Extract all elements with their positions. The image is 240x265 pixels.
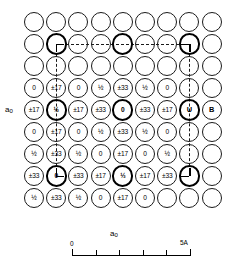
atom-height-label: ½: [76, 151, 81, 158]
atom-height-label: 0: [165, 85, 168, 92]
atom-circle: [24, 12, 44, 32]
atom-height-label: ±33: [118, 85, 128, 92]
atom-circle: [179, 56, 199, 76]
atom-height-label: ±33: [29, 173, 39, 180]
atom-circle: 0: [91, 188, 111, 208]
atom-height-label: ±33: [118, 129, 128, 136]
atom-circle: [202, 122, 222, 142]
atom-height-label: 0: [121, 107, 124, 114]
atom-circle: [68, 12, 88, 32]
atom-circle: U: [179, 99, 200, 120]
atom-height-label: 0: [32, 85, 35, 92]
atom-circle: [135, 12, 155, 32]
atom-height-label: ½: [142, 85, 147, 92]
atom-height-label: ±17: [140, 173, 150, 180]
atom-circle: ±33: [46, 144, 66, 164]
atom-circle: [179, 78, 199, 98]
atom-circle: ½: [24, 144, 44, 164]
atom-circle: [68, 34, 88, 54]
atom-circle: 0: [135, 144, 155, 164]
y-axis-label: a0: [5, 105, 13, 114]
atom-height-label: 0: [77, 129, 80, 136]
atom-circle: ±17: [113, 144, 133, 164]
atom-circle: [113, 56, 133, 76]
atom-circle: [202, 144, 222, 164]
atom-circle: ±17: [157, 100, 177, 120]
atom-circle: [179, 188, 199, 208]
atom-height-label: ½: [120, 173, 125, 180]
atom-height-label: ±33: [73, 173, 83, 180]
atom-circle: ±33: [91, 100, 111, 120]
atom-circle: [91, 12, 111, 32]
atom-height-label: ½: [98, 85, 103, 92]
atom-circle: 0: [68, 78, 88, 98]
atom-height-label: 0: [32, 129, 35, 136]
x-axis-label: a0: [110, 229, 118, 238]
atom-circle: ±17: [24, 100, 44, 120]
atom-circle: B: [202, 100, 222, 120]
atom-circle: 0: [112, 99, 133, 120]
atom-height-label: U: [187, 106, 192, 113]
atom-circle: ½: [157, 144, 177, 164]
scale-tick: [96, 250, 97, 256]
atom-circle: ±33: [113, 122, 133, 142]
atom-circle: ±17: [46, 78, 66, 98]
atom-height-label: ±33: [51, 195, 61, 202]
atom-height-label: ±17: [73, 107, 83, 114]
atom-circle: ±17: [46, 122, 66, 142]
atom-circle: [24, 56, 44, 76]
scale-end-label: 5A: [180, 239, 188, 246]
atom-height-label: ±17: [162, 107, 172, 114]
atom-height-label: 0: [77, 85, 80, 92]
scale-end-tick: [190, 249, 191, 256]
atom-circle: ±33: [68, 166, 88, 186]
atom-height-label: 0: [165, 129, 168, 136]
atom-circle: ½: [135, 78, 155, 98]
cell-corner-tick-vertical: [56, 44, 57, 52]
atom-circle: [91, 34, 111, 54]
atom-height-label: ½: [54, 107, 59, 114]
atom-circle: ±17: [135, 166, 155, 186]
atom-height-label: ±17: [51, 129, 61, 136]
atom-height-label: ±17: [95, 173, 105, 180]
atom-circle: ±33: [24, 166, 44, 186]
atom-circle: ±17: [68, 100, 88, 120]
atom-height-label: ±33: [51, 151, 61, 158]
atom-height-label: 0: [143, 195, 146, 202]
atom-circle: [113, 12, 133, 32]
atom-circle: ±33: [157, 166, 177, 186]
atom-circle: [135, 34, 155, 54]
cell-corner-tick-vertical: [189, 44, 190, 52]
atom-height-label: 0: [99, 151, 102, 158]
scale-bar: [72, 249, 190, 259]
cell-corner-tick-horizontal: [181, 44, 189, 45]
atom-circle: [179, 12, 199, 32]
atom-height-label: ½: [165, 151, 170, 158]
atom-circle: ½: [112, 165, 133, 186]
atom-height-label: ±33: [95, 107, 105, 114]
atom-circle: 0: [157, 78, 177, 98]
atom-circle: [179, 122, 199, 142]
atom-height-label: ½: [142, 129, 147, 136]
cell-corner-tick-horizontal: [56, 176, 64, 177]
scale-tick: [166, 250, 167, 256]
atom-height-label: ±17: [29, 107, 39, 114]
atom-circle: [157, 56, 177, 76]
atom-circle: ½: [46, 99, 67, 120]
atom-circle: [91, 56, 111, 76]
atom-circle: [157, 188, 177, 208]
atom-circle: [68, 56, 88, 76]
cell-corner-tick-horizontal: [181, 176, 189, 177]
atom-circle: [202, 166, 222, 186]
x-axis-label-subscript: 0: [114, 232, 117, 238]
atom-circle: [202, 78, 222, 98]
scale-end-tick: [72, 249, 73, 256]
atom-circle: 0: [157, 122, 177, 142]
scale-start-label: 0: [70, 240, 74, 247]
atom-circle: 0: [24, 78, 44, 98]
atom-circle: 0: [24, 122, 44, 142]
atom-height-label: ±17: [118, 195, 128, 202]
atom-height-label: ±33: [162, 173, 172, 180]
atom-circle: ±17: [113, 188, 133, 208]
atom-circle: ½: [91, 78, 111, 98]
